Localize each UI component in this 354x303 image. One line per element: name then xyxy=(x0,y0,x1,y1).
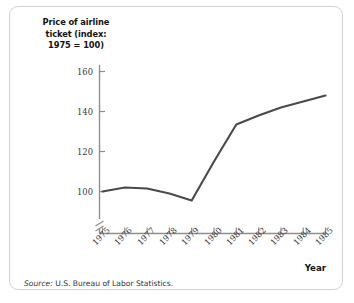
x-axis-title: Year xyxy=(305,263,326,273)
y-tick-label-160: 160 xyxy=(67,67,93,77)
y-axis-ticks xyxy=(100,72,106,192)
source-text: U.S. Bureau of Labor Statistics. xyxy=(53,279,173,288)
y-tick-label-140: 140 xyxy=(67,107,93,117)
source-label: Source: xyxy=(24,279,53,288)
source-divider xyxy=(20,275,334,276)
chart-figure: Price of airline ticket (index: 1975 = 1… xyxy=(9,6,343,290)
plot-area xyxy=(10,7,344,291)
y-tick-label-100: 100 xyxy=(67,187,93,197)
y-tick-label-120: 120 xyxy=(67,147,93,157)
data-series-line xyxy=(103,96,326,201)
source-note: Source: U.S. Bureau of Labor Statistics. xyxy=(24,279,173,288)
